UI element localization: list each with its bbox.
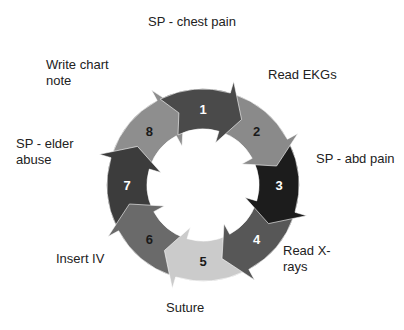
label-step-8: Write chart note (46, 57, 109, 89)
step-number-5: 5 (199, 254, 206, 269)
step-number-2: 2 (253, 124, 260, 139)
label-step-5: Suture (166, 300, 204, 316)
step-number-8: 8 (146, 124, 153, 139)
label-step-4: Read X- rays (283, 243, 331, 275)
step-number-4: 4 (253, 232, 261, 247)
step-number-3: 3 (275, 178, 282, 193)
label-step-7-line-2: abuse (16, 152, 74, 168)
step-number-7: 7 (123, 178, 130, 193)
label-step-4-line-2: rays (283, 259, 331, 275)
label-step-8-line-1: Write chart (46, 57, 109, 73)
label-step-4-line-1: Read X- (283, 243, 331, 259)
label-step-1: SP - chest pain (148, 14, 236, 30)
label-step-2: Read EKGs (268, 67, 337, 83)
label-step-3: SP - abd pain (316, 151, 395, 167)
step-number-1: 1 (199, 102, 206, 117)
label-step-6: Insert IV (56, 251, 104, 267)
label-step-7-line-1: SP - elder (16, 136, 74, 152)
label-step-7: SP - elder abuse (16, 136, 74, 168)
step-number-6: 6 (146, 232, 153, 247)
label-step-8-line-2: note (46, 73, 109, 89)
